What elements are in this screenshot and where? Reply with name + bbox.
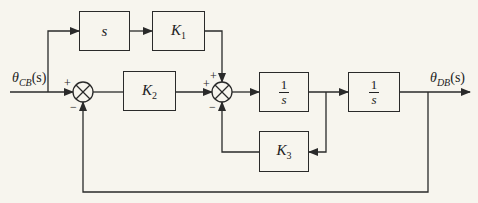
k3-label: K3 [276, 142, 291, 161]
gain-block-k3: K3 [259, 131, 309, 172]
sum1-plus-sign: + [64, 76, 71, 91]
k2-label: K2 [142, 82, 157, 101]
input-signal-label: θCB(s) [12, 70, 46, 88]
s-block-label: s [102, 23, 108, 40]
integrator-1-fraction: 1 s [279, 78, 290, 107]
sum2-plus-left-sign: + [203, 77, 210, 92]
gain-block-k2: K2 [123, 71, 176, 111]
integrator-2-fraction: 1 s [369, 78, 380, 107]
derivative-block-s: s [79, 11, 130, 51]
sum2-minus-sign: − [209, 100, 216, 115]
sum2-plus-top-sign: + [210, 69, 217, 84]
sum1-minus-sign: − [70, 100, 77, 115]
integrator-block-2: 1 s [348, 72, 400, 112]
k1-label: K1 [171, 22, 186, 41]
output-signal-label: θDB(s) [430, 70, 465, 88]
gain-block-k1: K1 [152, 11, 205, 51]
integrator-block-1: 1 s [259, 72, 309, 112]
